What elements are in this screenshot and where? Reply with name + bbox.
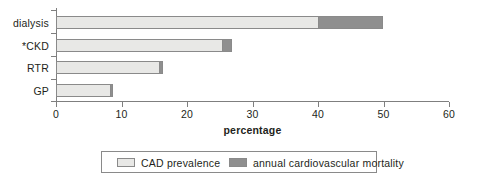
x-axis-tick [384, 102, 385, 107]
x-axis-tick [253, 102, 254, 107]
bar-row [56, 16, 383, 29]
bar-row [56, 39, 232, 52]
category-label-text: dialysis [0, 17, 49, 29]
legend-label-mortality: annual cardiovascular mortality [253, 157, 404, 169]
y-axis-tick [51, 10, 56, 11]
chart-legend: CAD prevalence annual cardiovascular mor… [101, 151, 377, 173]
x-axis-tick-label: 30 [233, 108, 273, 120]
x-axis-tick-label: 10 [102, 108, 142, 120]
y-axis-tick [51, 33, 56, 34]
category-label-text: GP [0, 85, 49, 97]
category-label-dialysis: dialysis [0, 17, 49, 29]
x-axis-tick-label: 40 [298, 108, 338, 120]
x-axis-tick [56, 102, 57, 107]
bar-segment-prevalence [56, 39, 222, 52]
y-axis-tick [51, 56, 56, 57]
legend-item-mortality: annual cardiovascular mortality [229, 156, 404, 169]
x-axis-tick [122, 102, 123, 107]
category-label-text: RTR [0, 62, 49, 74]
legend-item-prevalence: CAD prevalence [117, 156, 220, 169]
x-axis-tick [449, 102, 450, 107]
legend-swatch-icon [117, 158, 135, 167]
stacked-bar-chart: dialysis *CKD RTR GP 0102030405060 [0, 0, 477, 178]
bar-segment-prevalence [56, 84, 110, 97]
y-axis-tick [51, 79, 56, 80]
category-label-text: *CKD [0, 40, 49, 52]
x-axis-title: percentage [56, 124, 449, 136]
x-axis-tick [187, 102, 188, 107]
bar-segment-mortality [110, 84, 113, 97]
x-axis-tick-label: 60 [429, 108, 469, 120]
bar-row [56, 61, 163, 74]
category-label-ckd: *CKD [0, 40, 49, 52]
legend-swatch-icon [229, 158, 247, 167]
bar-segment-mortality [318, 16, 383, 29]
x-axis-tick-label: 50 [364, 108, 404, 120]
plot-area: dialysis *CKD RTR GP 0102030405060 [0, 0, 477, 122]
x-axis-tick-label: 0 [36, 108, 76, 120]
x-axis-tick [318, 102, 319, 107]
legend-label-prevalence: CAD prevalence [141, 157, 220, 169]
x-axis-tick-label: 20 [167, 108, 207, 120]
bar-segment-mortality [222, 39, 231, 52]
category-label-rtr: RTR [0, 62, 49, 74]
bar-row [56, 84, 113, 97]
bar-segment-mortality [159, 61, 163, 74]
category-label-gp: GP [0, 85, 49, 97]
bar-segment-prevalence [56, 61, 159, 74]
bar-segment-prevalence [56, 16, 318, 29]
